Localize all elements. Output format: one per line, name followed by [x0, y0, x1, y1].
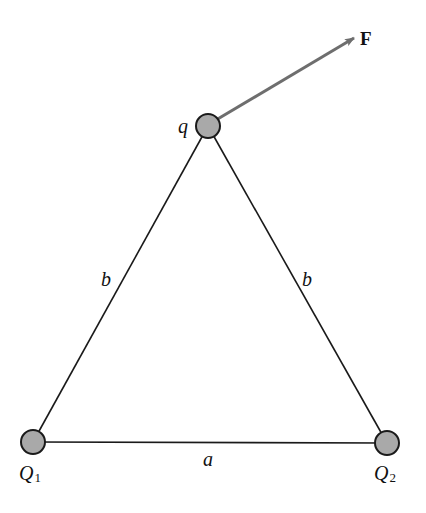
side-b-right	[208, 126, 387, 443]
charge-Q2	[375, 431, 399, 455]
triangle-charge-diagram: F q b b a Q1 Q2	[0, 0, 426, 513]
side-b-right-label: b	[302, 268, 312, 290]
charge-Q1	[21, 430, 45, 454]
charge-Q1-label: Q1	[19, 462, 41, 485]
side-b-left-label: b	[101, 268, 111, 290]
diagram-canvas: F q b b a Q1 Q2	[0, 0, 426, 513]
side-b-left	[33, 126, 208, 442]
force-arrow	[216, 38, 354, 120]
side-a-base	[33, 442, 387, 443]
charge-q-label: q	[178, 115, 188, 138]
charge-Q2-label: Q2	[374, 462, 396, 485]
side-a-label: a	[203, 448, 213, 470]
force-label: F	[360, 28, 372, 49]
charge-q	[196, 114, 220, 138]
